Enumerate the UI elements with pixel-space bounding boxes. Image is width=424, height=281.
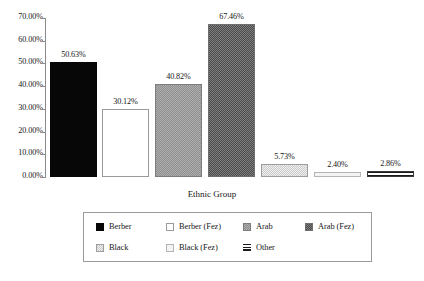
bar-value-label: 67.46% (219, 12, 244, 21)
bar-value-label: 2.86% (380, 159, 401, 168)
bar-berber[interactable] (50, 62, 97, 177)
bar-berber-fez[interactable] (102, 109, 149, 177)
y-axis-tick-label: 60.00% (18, 35, 43, 44)
legend-label: Arab (256, 222, 273, 232)
bar-arab[interactable] (155, 84, 202, 177)
y-axis-tick-label: 30.00% (18, 103, 43, 112)
legend-label: Berber (Fez) (179, 222, 221, 232)
bar-slot-arab: 40.82% (155, 0, 202, 177)
legend-swatch-icon (96, 244, 104, 252)
legend-label: Black (109, 243, 128, 253)
legend-label: Black (Fez) (179, 243, 218, 253)
legend-item-black-fez[interactable]: Black (Fez) (166, 241, 218, 255)
y-axis-tick-label: 0.00% (22, 171, 43, 180)
legend: Berber Berber (Fez) Arab Arab (Fez) Blac… (83, 212, 372, 262)
legend-row: Berber Berber (Fez) Arab Arab (Fez) (84, 220, 373, 234)
legend-item-arab[interactable]: Arab (243, 220, 273, 234)
legend-swatch-icon (166, 244, 174, 252)
bar-slot-berber: 50.63% (50, 0, 97, 177)
bar-value-label: 50.63% (61, 50, 86, 59)
y-axis-tick-label: 50.00% (18, 57, 43, 66)
bar-black[interactable] (261, 164, 308, 177)
bar-slot-berber-fez: 30.12% (102, 0, 149, 177)
y-axis-tick-mark (41, 177, 46, 178)
legend-swatch-icon (96, 223, 104, 231)
y-axis-tick-label: 70.00% (18, 12, 43, 21)
legend-swatch-icon (166, 223, 174, 231)
legend-swatch-icon (243, 223, 251, 231)
x-axis-title: Ethnic Group (0, 189, 424, 200)
bar-slot-black-fez: 2.40% (314, 0, 361, 177)
legend-swatch-icon (305, 223, 313, 231)
legend-item-other[interactable]: Other (243, 241, 275, 255)
legend-row: Black Black (Fez) Other (84, 241, 373, 255)
legend-item-arab-fez[interactable]: Arab (Fez) (305, 220, 354, 234)
y-axis-tick-label: 20.00% (18, 126, 43, 135)
bar-chart: 70.00% 60.00% 50.00% 40.00% 30.00% 20.00… (0, 0, 424, 281)
bar-slot-black: 5.73% (261, 0, 308, 177)
bar-slot-other: 2.86% (367, 0, 414, 177)
y-axis-tick-label: 40.00% (18, 80, 43, 89)
legend-label: Arab (Fez) (318, 222, 354, 232)
legend-swatch-icon (243, 244, 251, 252)
bars-group: 50.63% 30.12% 40.82% 67.46% 5.73% 2.40% (45, 0, 424, 177)
bar-value-label: 30.12% (113, 97, 138, 106)
bar-value-label: 40.82% (166, 72, 191, 81)
plot-area: 70.00% 60.00% 50.00% 40.00% 30.00% 20.00… (0, 0, 424, 190)
legend-item-berber[interactable]: Berber (96, 220, 132, 234)
bar-value-label: 5.73% (274, 152, 295, 161)
legend-item-berber-fez[interactable]: Berber (Fez) (166, 220, 221, 234)
y-axis-tick-label: 10.00% (18, 148, 43, 157)
legend-label: Other (256, 243, 275, 253)
bar-other[interactable] (367, 171, 414, 178)
bar-value-label: 2.40% (327, 160, 348, 169)
legend-label: Berber (109, 222, 132, 232)
bar-arab-fez[interactable] (208, 24, 255, 177)
legend-item-black[interactable]: Black (96, 241, 128, 255)
bar-black-fez[interactable] (314, 172, 361, 177)
bar-slot-arab-fez: 67.46% (208, 0, 255, 177)
